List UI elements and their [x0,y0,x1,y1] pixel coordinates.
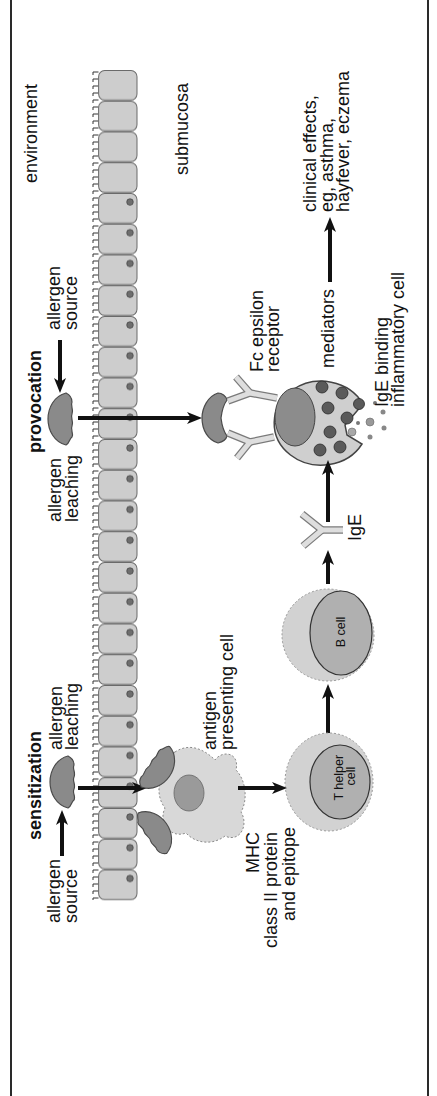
provocation-heading: provocation [25,350,45,453]
submucosa-label: submucosa [172,82,192,175]
ige-binding-cell-label: IgE binding inflammatory cell [372,272,408,407]
ige-binding-inflammatory-cell [274,381,386,465]
mediators-label: mediators [318,289,338,368]
diagram-canvas: environment submucosa provocation allerg… [0,0,437,1096]
epithelium-layer [90,70,138,900]
t-helper-cell: T helper cell [285,733,373,831]
allergy-mechanism-diagram: environment submucosa provocation allerg… [0,0,437,1096]
sensitization-heading: sensitization [25,731,45,840]
apc-nucleus [174,775,204,811]
provocation-allergen-particle [48,393,73,445]
antigen-presenting-cell-label: antigen presenting cell [200,634,237,750]
environment-label: environment [21,84,41,183]
sensitization-allergen-leaching-label: allergen leaching [46,681,82,750]
epithelial-cells [98,193,138,900]
b-cell-label: B cell [334,617,348,648]
sensitization-allergen-particle [50,756,75,808]
provocation-allergen-leaching-label: allergen leaching [45,453,82,522]
sensitization-allergen-source-label: allergen source [44,854,81,923]
ige-label: IgE [345,514,365,541]
provocation-allergen-source-label: allergen source [44,261,81,330]
b-cell: B cell [282,589,374,681]
epithelial-cells-upper [98,70,138,193]
antigen-presenting-cell [133,743,245,857]
mast-cell-nucleus [275,388,315,446]
clinical-effects-label: clinical effects, eg, asthma, hayfever, … [300,70,353,212]
ige-antibody-icon [302,514,343,546]
fc-epsilon-receptor-label: Fc epsilon receptor [247,285,283,372]
bound-allergen-particle [202,393,227,443]
cilia [90,70,99,900]
fc-epsilon-receptors [228,377,277,458]
mhc-label: MHC class II protein and epitope [243,827,299,948]
